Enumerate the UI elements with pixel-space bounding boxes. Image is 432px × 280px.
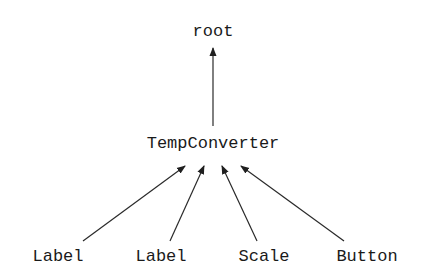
edge-label2-to-tempconverter — [170, 166, 204, 241]
node-label-1: Label — [32, 247, 83, 267]
edge-scale-to-tempconverter — [222, 166, 257, 241]
node-button: Button — [336, 247, 397, 267]
node-scale: Scale — [238, 247, 289, 267]
edge-label1-to-tempconverter — [83, 166, 185, 241]
widget-hierarchy-diagram: root TempConverter Label Label Scale But… — [0, 0, 432, 280]
node-root: root — [193, 22, 234, 42]
node-label-2: Label — [135, 247, 186, 267]
edge-button-to-tempconverter — [241, 166, 344, 241]
node-tempconverter: TempConverter — [147, 134, 280, 154]
